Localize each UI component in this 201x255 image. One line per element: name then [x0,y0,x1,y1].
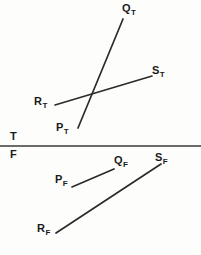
pf-qf-segment [72,169,114,187]
divider-true-label: T [10,131,17,142]
node-label-base: P [56,121,63,133]
node-label-base: S [155,151,162,163]
node-label-q-true: QT [122,3,135,14]
diagram-canvas [0,0,201,255]
node-label-r-true: RT [34,96,47,107]
false-region-segments [56,164,161,233]
node-label-base: R [34,95,42,107]
node-label-q-false: QF [114,155,127,166]
node-label-p-true: PT [56,122,68,133]
node-label-s-false: SF [155,152,167,163]
diagram-figure: T F QTSTRTPTQFSFPFRF [0,0,201,255]
node-label-base: R [37,222,45,234]
node-label-base: S [152,64,159,76]
node-label-subscript: T [42,101,47,110]
node-label-subscript: T [160,70,165,79]
node-label-base: Q [122,2,131,14]
node-label-p-false: PF [55,174,67,185]
node-label-subscript: F [63,179,68,188]
rf-sf-segment [56,164,161,233]
pt-qt-segment [78,19,123,128]
node-label-base: Q [114,154,123,166]
node-label-subscript: F [123,160,128,169]
node-label-r-false: RF [37,223,50,234]
node-label-base: P [55,173,62,185]
divider-false-label: F [10,149,17,160]
node-label-subscript: T [131,8,136,17]
node-label-subscript: F [163,157,168,166]
node-label-subscript: F [45,228,50,237]
true-region-segments [55,19,152,128]
node-label-subscript: T [64,127,69,136]
node-label-s-true: ST [152,65,164,76]
rt-st-segment [55,76,152,105]
